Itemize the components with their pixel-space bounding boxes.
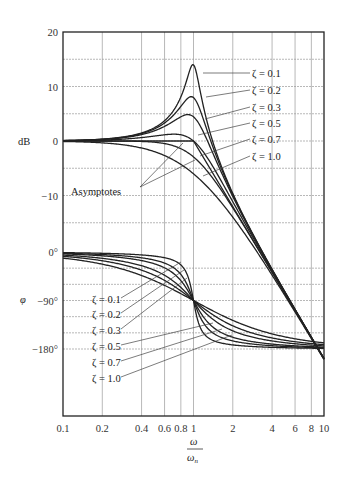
phase-zeta-label: ζ = 0.1 bbox=[92, 294, 121, 306]
x-label-denominator: ωn bbox=[187, 452, 198, 465]
phase-zeta-label: ζ = 0.2 bbox=[92, 309, 121, 321]
leader-line bbox=[121, 323, 213, 345]
x-tick-label: 2 bbox=[230, 423, 235, 434]
x-tick-label: 0.4 bbox=[135, 423, 149, 434]
phase-zeta-label: ζ = 0.5 bbox=[92, 341, 121, 353]
x-axis-label: ω ωn bbox=[187, 436, 203, 465]
asymptotes-label: Asymptotes bbox=[71, 186, 121, 197]
leader-line bbox=[206, 90, 250, 97]
magnitude-zeta-label: ζ = 0.7 bbox=[252, 134, 281, 146]
bode-plot: 0.10.20.40.60.8124681020100−100°−90°−180… bbox=[0, 0, 343, 482]
db-axis-label: dB bbox=[18, 136, 30, 147]
db-tick-label: −10 bbox=[42, 191, 58, 202]
phase-tick-label: 0° bbox=[49, 247, 58, 258]
magnitude-zeta-label: ζ = 0.5 bbox=[252, 118, 281, 130]
leader-line bbox=[121, 329, 222, 361]
x-tick-label: 0.1 bbox=[56, 423, 69, 434]
phase-tick-label: −90° bbox=[37, 296, 58, 307]
db-tick-label: 20 bbox=[48, 27, 59, 38]
asymptote-leader bbox=[140, 160, 195, 187]
db-tick-label: 0 bbox=[53, 136, 58, 147]
db-tick-label: 10 bbox=[48, 82, 59, 93]
x-tick-label: 6 bbox=[292, 423, 297, 434]
magnitude-zeta-label: ζ = 0.1 bbox=[252, 68, 281, 80]
x-tick-label: 0.2 bbox=[96, 423, 109, 434]
phase-tick-label: −180° bbox=[32, 344, 58, 355]
leader-line bbox=[203, 156, 250, 176]
leader-line bbox=[121, 278, 187, 329]
x-tick-label: 0.8 bbox=[174, 423, 187, 434]
phase-zeta-label: ζ = 1.0 bbox=[92, 373, 121, 385]
x-tick-label: 10 bbox=[319, 423, 330, 434]
leader-lines bbox=[121, 73, 250, 377]
phi-axis-label: φ bbox=[20, 294, 26, 305]
x-tick-label: 0.6 bbox=[158, 423, 171, 434]
x-tick-label: 8 bbox=[309, 423, 314, 434]
x-tick-label: 1 bbox=[191, 423, 196, 434]
phase-zeta-label: ζ = 0.3 bbox=[92, 325, 121, 337]
magnitude-zeta-label: ζ = 0.3 bbox=[252, 102, 281, 114]
x-label-numerator: ω bbox=[190, 436, 197, 447]
magnitude-zeta-label: ζ = 1.0 bbox=[252, 151, 281, 163]
magnitude-zeta-label: ζ = 0.2 bbox=[252, 85, 281, 97]
leader-line bbox=[121, 270, 184, 313]
phase-zeta-label: ζ = 0.7 bbox=[92, 357, 121, 369]
x-tick-label: 4 bbox=[269, 423, 275, 434]
leader-line bbox=[205, 107, 250, 119]
